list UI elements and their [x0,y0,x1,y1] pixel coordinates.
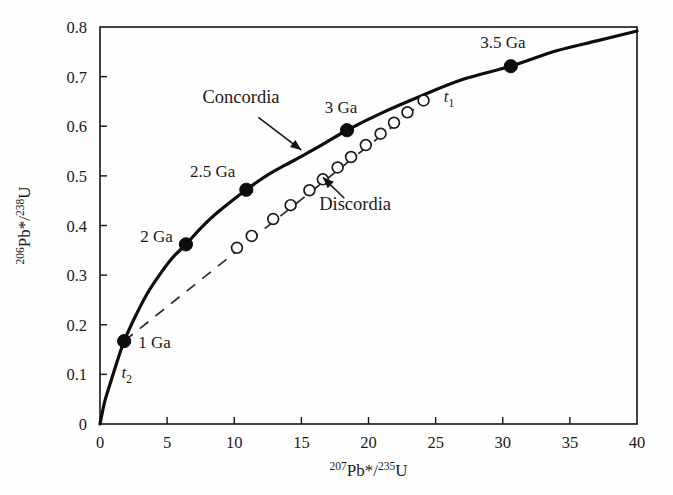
x-tick-label: 35 [562,433,579,452]
y-axis-title: 206Pb*/238U [14,187,34,265]
age-label: 2.5 Ga [190,162,236,181]
discordia-point [268,214,279,225]
x-tick-label: 5 [163,433,171,452]
y-tick-label: 0.1 [66,365,87,384]
discordia-point [389,117,400,128]
age-label: 1 Ga [138,333,171,352]
y-tick-label: 0.6 [66,117,87,136]
x-tick-label: 40 [629,433,646,452]
concordia-age-point [240,183,253,196]
discordia-point [285,200,296,211]
age-label: 3 Ga [325,98,358,117]
y-tick-label: 0.8 [66,18,87,37]
discordia-point [346,152,357,163]
x-tick-label: 0 [96,433,104,452]
x-tick-label: 25 [427,433,444,452]
concordia-age-point [340,124,353,137]
concordia-plot-svg: 0510152025303540 00.10.20.30.40.50.60.70… [0,0,673,495]
discordia-point [360,140,371,151]
intercept-label-t1: t1 [444,87,455,109]
age-label: 3.5 Ga [480,33,526,52]
plot-frame [100,27,637,424]
curve-label-concordia: Concordia [202,87,279,107]
y-tick-label: 0.4 [66,217,87,236]
discordia-point [375,128,386,139]
intercept-label-t2: t2 [122,363,133,385]
discordia-point [304,185,315,196]
y-tick-label: 0.2 [66,316,87,335]
x-tick-label: 15 [293,433,310,452]
discordia-point [332,162,343,173]
concordia-age-point [179,238,192,251]
y-tick-label: 0.7 [66,68,87,87]
y-tick-label: 0.3 [66,266,87,285]
y-tick-label: 0.5 [66,167,87,186]
concordia-age-point [504,60,517,73]
age-label: 2 Ga [140,227,173,246]
concordia-age-points [118,60,518,348]
y-axis-ticks: 00.10.20.30.40.50.60.70.8 [66,18,107,434]
curve-label-discordia: Discordia [319,194,391,214]
concordia-diagram-figure: 0510152025303540 00.10.20.30.40.50.60.70… [0,0,673,495]
x-axis-title: 207Pb*/235U [330,460,408,480]
x-tick-label: 10 [226,433,243,452]
discordia-point [246,231,257,242]
discordia-point [402,107,413,118]
discordia-point [232,242,243,253]
y-tick-label: 0 [79,415,87,434]
annotation-arrowhead [290,140,301,150]
concordia-curve [100,31,637,424]
x-axis-ticks: 0510152025303540 [96,417,645,452]
discordia-point [418,95,429,106]
x-tick-label: 20 [360,433,377,452]
x-tick-label: 30 [495,433,512,452]
concordia-age-point [118,335,131,348]
